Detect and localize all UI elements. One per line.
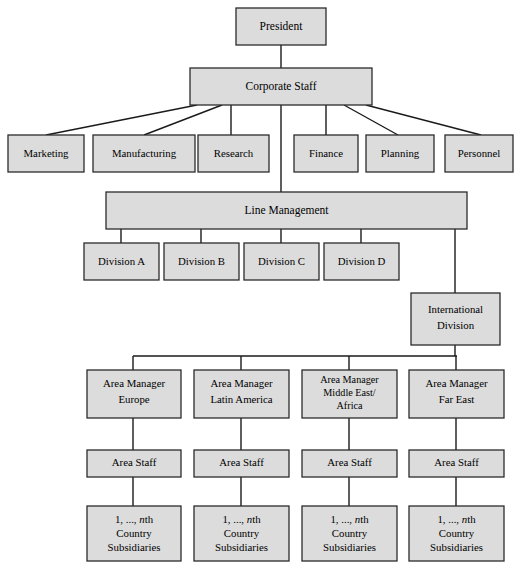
country-subsidiaries-label-line1: 1, ..., nth: [115, 513, 154, 525]
node-department-finance[interactable]: Finance: [294, 135, 358, 172]
division-label: Division D: [338, 255, 386, 267]
node-international-division[interactable]: International Division: [411, 293, 500, 345]
subsidiary-range-prefix: 1, ...,: [115, 513, 139, 525]
area-manager-label-line1: Area Manager: [103, 377, 165, 389]
division-label: Division C: [258, 255, 305, 267]
area-staff-label: Area Staff: [434, 456, 479, 468]
node-area-manager-latin-america[interactable]: Area Manager Latin America: [194, 370, 289, 418]
department-label: Research: [214, 147, 254, 159]
node-area-manager-europe[interactable]: Area Manager Europe: [87, 370, 181, 418]
area-manager-label-line2: Far East: [439, 393, 475, 405]
department-label: Personnel: [458, 147, 501, 159]
corporate-staff-label: Corporate Staff: [245, 80, 316, 93]
subsidiary-range-suffix: th: [252, 513, 261, 525]
node-department-marketing[interactable]: Marketing: [8, 135, 84, 172]
org-chart-canvas: President Corporate Staff Marketing Manu…: [0, 0, 520, 569]
node-area-staff-3[interactable]: Area Staff: [302, 450, 397, 477]
node-department-planning[interactable]: Planning: [366, 135, 434, 172]
country-subsidiaries-label-line1: 1, ..., nth: [437, 513, 476, 525]
international-division-label-line1: International: [428, 303, 483, 315]
country-subsidiaries-label-line2: Country: [116, 527, 152, 539]
subsidiary-range-suffix: th: [360, 513, 369, 525]
area-manager-label-line1: Area Manager: [425, 377, 487, 389]
node-country-subsidiaries-2[interactable]: 1, ..., nth Country Subsidiaries: [194, 506, 289, 561]
department-label: Finance: [309, 147, 343, 159]
node-department-personnel[interactable]: Personnel: [445, 135, 513, 172]
area-manager-label-line1: Area Manager: [210, 377, 272, 389]
node-area-manager-middle-east-africa[interactable]: Area Manager Middle East/ Africa: [302, 370, 397, 418]
area-staff-label: Area Staff: [112, 456, 157, 468]
subsidiary-range-prefix: 1, ...,: [437, 513, 461, 525]
department-label: Manufacturing: [112, 147, 177, 159]
connector-corporate-manufacturing: [144, 105, 222, 135]
country-subsidiaries-label-line1: 1, ..., nth: [330, 513, 369, 525]
country-subsidiaries-label-line3: Subsidiaries: [323, 541, 376, 553]
connector-corporate-personnel: [366, 105, 481, 135]
subsidiary-range-suffix: th: [145, 513, 154, 525]
subsidiary-range-prefix: 1, ...,: [222, 513, 246, 525]
international-division-label-line2: Division: [437, 319, 475, 331]
country-subsidiaries-label-line1: 1, ..., nth: [222, 513, 261, 525]
department-label: Marketing: [24, 147, 70, 159]
country-subsidiaries-label-line3: Subsidiaries: [108, 541, 161, 553]
area-staff-label: Area Staff: [219, 456, 264, 468]
node-line-management[interactable]: Line Management: [106, 192, 467, 229]
node-department-manufacturing[interactable]: Manufacturing: [93, 135, 195, 172]
node-country-subsidiaries-4[interactable]: 1, ..., nth Country Subsidiaries: [409, 506, 504, 561]
division-label: Division B: [178, 255, 225, 267]
country-subsidiaries-label-line2: Country: [224, 527, 260, 539]
area-manager-label-line2: Latin America: [210, 393, 272, 405]
org-chart-diagram: President Corporate Staff Marketing Manu…: [0, 0, 520, 569]
area-manager-label-line2: Middle East/: [323, 387, 376, 398]
area-manager-label-line2: Europe: [118, 393, 149, 405]
node-division-d[interactable]: Division D: [324, 243, 399, 280]
node-department-research[interactable]: Research: [198, 135, 269, 172]
division-label: Division A: [98, 255, 145, 267]
subsidiary-range-prefix: 1, ...,: [330, 513, 354, 525]
node-president[interactable]: President: [236, 8, 326, 45]
connector-corporate-marketing: [46, 105, 197, 135]
area-manager-label-line3: Africa: [336, 400, 362, 411]
node-area-staff-4[interactable]: Area Staff: [409, 450, 504, 477]
area-staff-label: Area Staff: [327, 456, 372, 468]
subsidiary-range-suffix: th: [467, 513, 476, 525]
node-division-c[interactable]: Division C: [244, 243, 319, 280]
node-division-a[interactable]: Division A: [84, 243, 159, 280]
node-corporate-staff[interactable]: Corporate Staff: [190, 68, 372, 105]
node-area-staff-2[interactable]: Area Staff: [194, 450, 289, 477]
node-country-subsidiaries-1[interactable]: 1, ..., nth Country Subsidiaries: [87, 506, 181, 561]
node-country-subsidiaries-3[interactable]: 1, ..., nth Country Subsidiaries: [302, 506, 397, 561]
country-subsidiaries-label-line2: Country: [439, 527, 475, 539]
country-subsidiaries-label-line3: Subsidiaries: [430, 541, 483, 553]
department-label: Planning: [381, 147, 420, 159]
node-division-b[interactable]: Division B: [164, 243, 239, 280]
node-area-manager-far-east[interactable]: Area Manager Far East: [409, 370, 504, 418]
node-area-staff-1[interactable]: Area Staff: [87, 450, 181, 477]
country-subsidiaries-label-line3: Subsidiaries: [215, 541, 268, 553]
president-label: President: [260, 20, 304, 32]
country-subsidiaries-label-line2: Country: [332, 527, 368, 539]
connector-corporate-planning: [344, 105, 398, 135]
line-management-label: Line Management: [245, 204, 330, 217]
area-manager-label-line1: Area Manager: [320, 374, 379, 385]
